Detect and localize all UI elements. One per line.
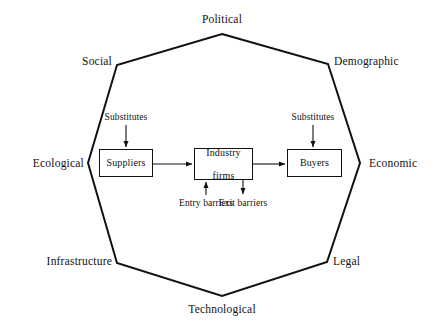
node-label-suppliers: Suppliers bbox=[100, 157, 152, 169]
force-label-exit-barriers-line2: barriers bbox=[237, 198, 267, 208]
node-label-buyers: Buyers bbox=[288, 157, 341, 169]
node-label-industry-firms-line2: firms bbox=[195, 170, 252, 182]
env-label-social: Social bbox=[82, 55, 112, 67]
env-label-political: Political bbox=[202, 13, 242, 25]
env-label-legal: Legal bbox=[333, 255, 360, 267]
diagram-canvas: Political Demographic Economic Legal Tec… bbox=[0, 0, 439, 326]
node-label-industry-firms-line1: Industry bbox=[195, 147, 252, 159]
force-label-exit-barriers-line1: Exit bbox=[219, 198, 235, 208]
env-label-economic: Economic bbox=[369, 157, 417, 169]
env-label-infrastructure: Infrastructure bbox=[47, 255, 112, 267]
force-label-exit-barriers: Exit barriers bbox=[219, 198, 268, 209]
node-label-industry-firms: Industry firms bbox=[195, 147, 252, 182]
node-box-suppliers: Suppliers bbox=[99, 149, 153, 177]
force-label-entry-barriers-line1: Entry bbox=[179, 198, 201, 208]
node-box-buyers: Buyers bbox=[287, 149, 342, 177]
env-label-technological: Technological bbox=[188, 303, 256, 315]
env-label-demographic: Demographic bbox=[334, 55, 399, 67]
env-label-ecological: Ecological bbox=[33, 157, 84, 169]
force-label-substitutes-left: Substitutes bbox=[105, 112, 148, 123]
force-label-substitutes-right: Substitutes bbox=[292, 112, 335, 123]
node-box-industry-firms: Industry firms bbox=[194, 148, 253, 180]
